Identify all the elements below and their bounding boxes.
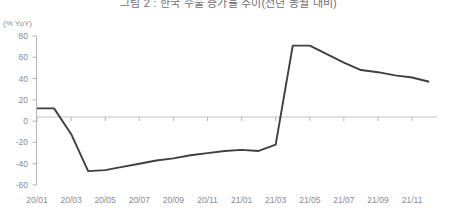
- y-axis: [33, 36, 37, 185]
- data-series-line: [37, 46, 429, 172]
- y-tick-label: -20: [2, 138, 28, 147]
- y-tick-label: 60: [2, 53, 28, 62]
- x-tick-label: 21/11: [392, 196, 432, 205]
- y-tick-label: 0: [2, 117, 28, 126]
- y-tick-label: -40: [2, 160, 28, 169]
- y-axis-ticks: [33, 36, 37, 185]
- y-tick-label: 40: [2, 75, 28, 84]
- chart-container: 그림 2 : 한국 수출 증가율 추이(전년 동월 대비) (% YoY) 80…: [0, 0, 457, 213]
- y-tick-label: -60: [2, 181, 28, 190]
- y-tick-label: 80: [2, 32, 28, 41]
- plot-area: [0, 0, 457, 213]
- x-axis-ticks: [37, 117, 412, 121]
- y-tick-label: 20: [2, 96, 28, 105]
